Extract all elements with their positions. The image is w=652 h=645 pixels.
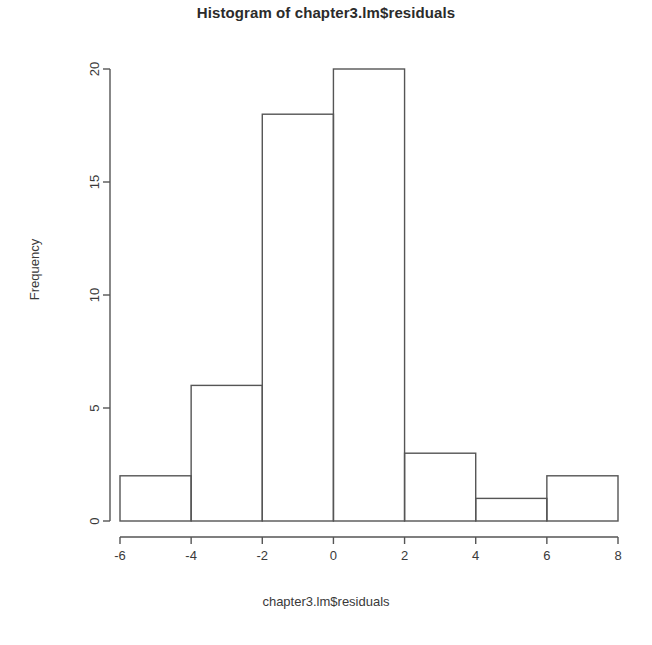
y-axis-tick-label: 5 bbox=[87, 404, 102, 411]
x-axis-tick-label: -4 bbox=[185, 548, 197, 563]
histogram-bar bbox=[191, 385, 262, 521]
y-axis-tick-label: 10 bbox=[87, 288, 102, 302]
x-axis-tick-label: 8 bbox=[614, 548, 621, 563]
bars-group bbox=[120, 69, 618, 521]
x-axis-tick-label: 4 bbox=[472, 548, 479, 563]
y-axis-tick-label: 15 bbox=[87, 175, 102, 189]
x-axis-tick-label: -2 bbox=[257, 548, 269, 563]
histogram-bar bbox=[120, 476, 191, 521]
histogram-bar bbox=[262, 114, 333, 521]
y-axis-tick-label: 0 bbox=[87, 517, 102, 524]
histogram-bar bbox=[476, 498, 547, 521]
histogram-bar bbox=[405, 453, 476, 521]
histogram-bar bbox=[547, 476, 618, 521]
y-axis: 05101520 bbox=[87, 62, 111, 525]
histogram-bar bbox=[333, 69, 404, 521]
x-axis-tick-label: 6 bbox=[543, 548, 550, 563]
x-axis: -6-4-202468 bbox=[114, 537, 621, 563]
plot-canvas: 05101520 -6-4-202468 bbox=[0, 0, 652, 645]
x-axis-tick-label: 2 bbox=[401, 548, 408, 563]
x-axis-tick-label: -6 bbox=[114, 548, 126, 563]
histogram-plot: Histogram of chapter3.lm$residuals Frequ… bbox=[0, 0, 652, 645]
x-axis-tick-label: 0 bbox=[330, 548, 337, 563]
y-axis-tick-label: 20 bbox=[87, 62, 102, 76]
